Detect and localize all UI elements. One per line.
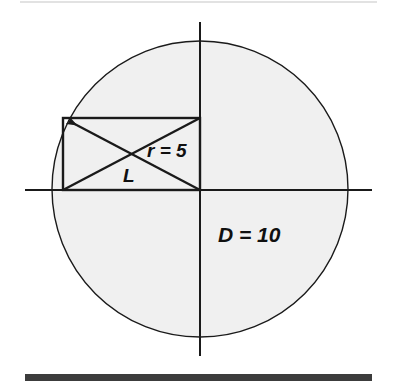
diameter-label: D = 10 <box>218 223 281 246</box>
radius-label: r = 5 <box>147 140 187 161</box>
length-label: L <box>123 165 135 186</box>
bottom-divider-bar <box>25 374 372 381</box>
geometry-figure: r = 5 L D = 10 <box>0 0 397 392</box>
diagram-canvas: r = 5 L D = 10 <box>0 0 397 392</box>
